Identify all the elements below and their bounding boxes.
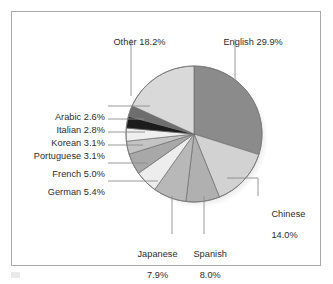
- pie-label-chinese-name: Chinese: [271, 209, 305, 219]
- pie-label-spanish-value: 8.0%: [200, 270, 221, 280]
- pie-slice-group: [126, 66, 262, 202]
- pie-label-german-text: German 5.4%: [48, 187, 105, 197]
- pie-label-japanese-name: Japanese: [137, 249, 177, 259]
- pie-label-japanese-value: 7.9%: [147, 270, 168, 280]
- pie-label-chinese: Chinese 14.0%: [261, 198, 305, 251]
- pie-label-english-text: English 29.9%: [223, 37, 282, 47]
- pie-label-english: English 29.9%: [213, 26, 283, 58]
- pie-label-german: German 5.4%: [37, 176, 105, 208]
- pie-chart-figure: Other 18.2% English 29.9% Arabic 2.6% It…: [0, 0, 333, 284]
- pie-label-japanese: Japanese 7.9%: [127, 238, 178, 284]
- pie-label-spanish: Spanish 8.0%: [183, 238, 227, 284]
- pie-label-other-text: Other 18.2%: [113, 37, 165, 47]
- pie-label-spanish-name: Spanish: [193, 249, 227, 259]
- pie-label-other: Other 18.2%: [103, 26, 166, 58]
- pie-label-chinese-value: 14.0%: [271, 230, 297, 240]
